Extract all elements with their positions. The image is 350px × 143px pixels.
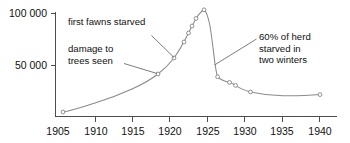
data-point-1921 <box>182 40 186 44</box>
data-point-1922 <box>187 31 191 35</box>
x-axis-label-1930: 1930 <box>225 125 265 137</box>
annotation-damage-to-trees: damage to trees seen <box>68 43 113 66</box>
leader-first-fawns <box>152 36 175 58</box>
data-point-1923 <box>190 24 194 28</box>
data-point-1924 <box>194 17 198 21</box>
leader-sixty-percent <box>215 39 257 65</box>
annotation-starved-line-1: 60% of herd <box>259 31 311 43</box>
annotation-first-fawns-line-1: first fawns starved <box>68 16 145 28</box>
x-axis-label-1910: 1910 <box>76 125 116 137</box>
data-point-1926 <box>216 75 220 79</box>
x-axis-label-1905: 1905 <box>38 125 78 137</box>
leader-damage-trees <box>124 64 157 74</box>
x-axis-label-1935: 1935 <box>262 125 302 137</box>
x-axis-label-1925: 1925 <box>188 125 228 137</box>
annotation-damage-line-1: damage to <box>68 43 113 55</box>
data-point-1939 <box>318 93 322 97</box>
y-axis-label-50000: 50 000 <box>0 59 47 71</box>
annotation-sixty-percent-starved: 60% of herd starved in two winters <box>259 31 311 66</box>
data-point-1925 <box>202 8 206 12</box>
annotation-damage-line-2: trees seen <box>68 55 113 67</box>
annotation-starved-line-2: starved in <box>259 43 311 55</box>
x-axis-label-1915: 1915 <box>113 125 153 137</box>
annotation-first-fawns-starved: first fawns starved <box>68 16 145 28</box>
annotation-starved-line-3: two winters <box>259 54 311 66</box>
data-point-1931 <box>249 90 253 94</box>
x-axis-label-1920: 1920 <box>150 125 190 137</box>
data-point-1927 <box>228 81 232 85</box>
population-line-chart: 100 000 50 000 1905 1910 1915 1920 1925 … <box>0 0 350 143</box>
chart-canvas <box>0 0 350 143</box>
x-axis-label-1940: 1940 <box>300 125 340 137</box>
y-axis-label-100000: 100 000 <box>0 7 47 19</box>
data-point-1929 <box>234 84 238 88</box>
data-point-1918 <box>156 72 160 76</box>
data-point-1905 <box>61 110 65 114</box>
